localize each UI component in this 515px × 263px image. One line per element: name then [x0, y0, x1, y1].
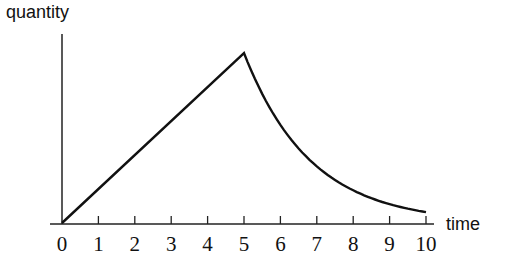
x-tick-label: 8 [348, 232, 359, 257]
chart: quantity time 012345678910 [0, 0, 515, 263]
x-tick-label: 10 [416, 232, 437, 257]
plot-area [0, 0, 515, 263]
x-ticks [98, 216, 426, 224]
x-tick-label: 4 [202, 232, 213, 257]
x-tick-label: 9 [384, 232, 395, 257]
quantity-line [62, 53, 426, 223]
x-tick-label: 3 [166, 232, 177, 257]
x-tick-label: 1 [93, 232, 104, 257]
x-axis-label: time [446, 214, 480, 235]
x-tick-label: 6 [275, 232, 286, 257]
x-tick-label: 0 [57, 232, 68, 257]
x-tick-label: 7 [312, 232, 323, 257]
y-axis-label: quantity [6, 2, 69, 23]
x-tick-label: 2 [130, 232, 141, 257]
x-tick-label: 5 [239, 232, 250, 257]
